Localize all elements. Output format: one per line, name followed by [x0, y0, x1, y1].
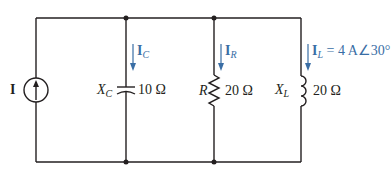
inductor-icon — [301, 76, 306, 106]
junction-dot — [124, 160, 129, 165]
current-ir-label: IR — [225, 44, 237, 60]
inductor-symbol-label: XL — [275, 83, 289, 99]
source-label: I — [10, 83, 15, 97]
current-ic-label: IC — [137, 44, 149, 60]
junction-dot — [124, 16, 129, 21]
current-il-label: IL = 4 A∠30° — [312, 44, 390, 60]
resistor-symbol-label: R — [199, 84, 208, 98]
capacitor-symbol-label: XC — [97, 83, 112, 99]
capacitor-value: 10 Ω — [138, 83, 166, 97]
circuit-diagram: I XC 10 Ω IC R 20 Ω IR XL 20 Ω IL = 4 A∠… — [0, 0, 392, 178]
resistor-value: 20 Ω — [225, 84, 253, 98]
resistor-icon — [209, 75, 219, 106]
junction-dot — [212, 160, 217, 165]
junction-dot — [212, 16, 217, 21]
inductor-value: 20 Ω — [313, 84, 341, 98]
